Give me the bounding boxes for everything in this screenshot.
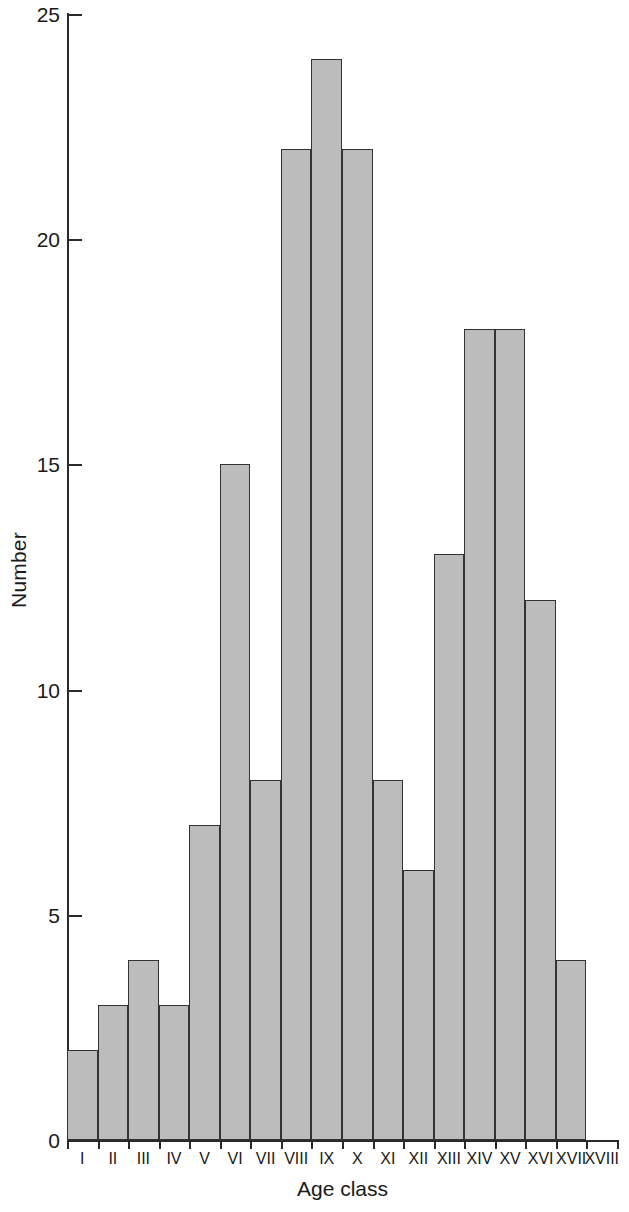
y-axis-tick-label: 10 (20, 679, 60, 700)
bar-XI (373, 780, 404, 1140)
x-axis-tick-label: III (137, 1148, 150, 1170)
bar-IX (311, 59, 342, 1140)
x-axis-tick-label: VI (227, 1148, 242, 1170)
bar-V (189, 825, 220, 1140)
bar-IV (159, 1005, 190, 1140)
x-axis-tick-label: I (80, 1148, 84, 1170)
y-axis-tick-label: 25 (20, 4, 60, 25)
bar-III (128, 960, 159, 1140)
x-axis-tick-label: XIV (467, 1148, 493, 1170)
x-axis-tick-label: XII (409, 1148, 429, 1170)
bar-XIV (464, 329, 495, 1140)
bar-XVI (525, 600, 556, 1140)
x-axis-tick-label: VIII (284, 1148, 308, 1170)
plot-area (67, 14, 617, 1140)
x-axis-tick-label: II (108, 1148, 117, 1170)
bar-XV (495, 329, 526, 1140)
x-axis-tick-label: XVII (556, 1148, 586, 1170)
bar-VI (220, 464, 251, 1140)
x-axis-tick-label: XVI (528, 1148, 554, 1170)
x-axis-label: Age class (67, 1177, 618, 1201)
x-axis-tick-label: IV (166, 1148, 181, 1170)
bar-II (98, 1005, 129, 1140)
x-axis-tick-label: V (199, 1148, 210, 1170)
y-axis-tick-label: 5 (20, 904, 60, 925)
bar-XII (403, 870, 434, 1140)
bar-X (342, 149, 373, 1140)
x-axis-tick-label: XIII (437, 1148, 461, 1170)
x-axis-tick-labels: IIIIIIIVVVIVIIVIIIIXXXIXIIXIIIXIVXVXVIXV… (67, 1148, 618, 1174)
y-axis-tick-labels: 0510152025 (0, 0, 60, 1212)
bar-XVII (556, 960, 587, 1140)
x-axis-tick-label: VII (256, 1148, 276, 1170)
x-axis-tick-label: IX (319, 1148, 334, 1170)
y-axis-tick-label: 20 (20, 229, 60, 250)
x-axis-tick-label: XV (499, 1148, 520, 1170)
bar-VII (250, 780, 281, 1140)
histogram-chart: Number 0510152025 IIIIIIIVVVIVIIVIIIIXXX… (0, 0, 629, 1212)
bar-I (67, 1050, 98, 1140)
x-axis-tick-label: XI (380, 1148, 395, 1170)
x-axis-tick-label: X (352, 1148, 363, 1170)
y-axis-tick-label: 0 (20, 1130, 60, 1151)
bar-XIII (434, 554, 465, 1140)
bar-VIII (281, 149, 312, 1140)
bar-series (67, 14, 617, 1140)
y-axis-tick-label: 15 (20, 454, 60, 475)
x-axis-tick-label: XVIII (584, 1148, 619, 1170)
